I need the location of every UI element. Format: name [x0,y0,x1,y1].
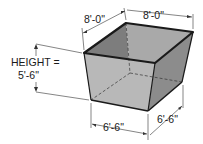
bottom-front-dimension-label: 6'-6" [103,121,124,133]
top-left-dimension-label: 8'-0" [84,13,105,25]
bottom-right-dimension-label: 6'-6" [157,113,178,125]
height-value-label: 5'-6" [18,69,39,81]
frustum-bin-drawing: 8'-0" 8'-0" HEIGHT = 5'-6" 6'-6" 6'-6" [0,0,203,144]
top-right-dimension-label: 8'-0" [143,9,164,21]
diagram-canvas: 8'-0" 8'-0" HEIGHT = 5'-6" 6'-6" 6'-6" [0,0,203,144]
height-title-label: HEIGHT = [11,56,60,68]
